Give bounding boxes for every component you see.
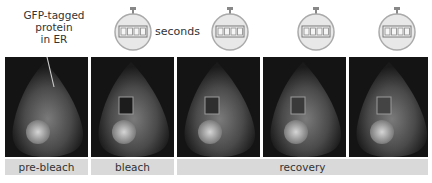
stopwatch-icon-1 bbox=[110, 6, 156, 52]
stage-label-bleach: bleach bbox=[91, 159, 174, 175]
micrograph-recovery-3 bbox=[349, 57, 428, 157]
annotation-line-3: in ER bbox=[14, 33, 94, 45]
seconds-label: seconds bbox=[155, 25, 200, 38]
annotation-line-1: GFP-tagged bbox=[14, 9, 94, 21]
micrograph-bleach bbox=[91, 57, 174, 157]
micrograph-recovery-2 bbox=[263, 57, 346, 157]
micrograph-pre-bleach bbox=[5, 57, 88, 157]
stage-label-pre-bleach: pre-bleach bbox=[5, 159, 88, 175]
stopwatch-icon-2 bbox=[207, 6, 253, 52]
micrograph-recovery-1 bbox=[177, 57, 260, 157]
stopwatch-icon-3 bbox=[293, 6, 339, 52]
stage-label-recovery: recovery bbox=[177, 159, 428, 175]
stopwatch-icon-4 bbox=[374, 6, 420, 52]
annotation-line-2: protein bbox=[14, 21, 94, 33]
gfp-annotation: GFP-tagged protein in ER bbox=[14, 9, 94, 45]
